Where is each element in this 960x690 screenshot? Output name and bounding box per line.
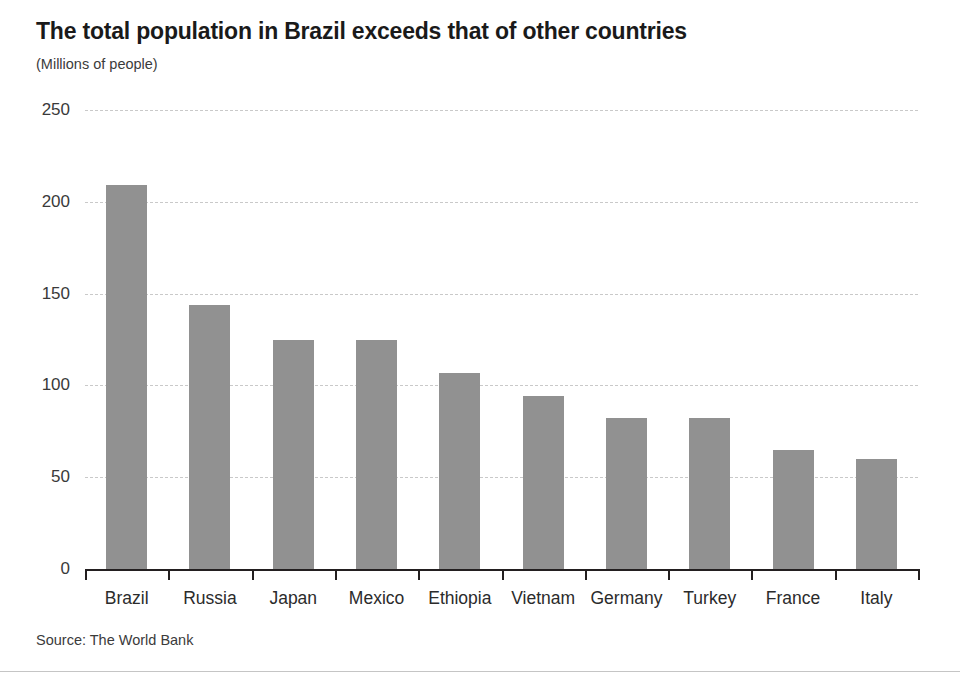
x-axis-tick xyxy=(502,569,504,580)
x-axis-tick-label: Ethiopia xyxy=(428,588,491,609)
x-axis-tick xyxy=(668,569,670,580)
chart-figure: The total population in Brazil exceeds t… xyxy=(0,0,960,690)
x-axis-tick-label: France xyxy=(766,588,820,609)
bar xyxy=(273,340,314,570)
y-axis-tick-label: 200 xyxy=(10,192,70,212)
gridline xyxy=(85,202,918,203)
y-axis-tick-label: 150 xyxy=(10,284,70,304)
x-axis-tick xyxy=(918,569,920,580)
bar xyxy=(189,305,230,569)
source-note: Source: The World Bank xyxy=(36,632,193,648)
bar xyxy=(689,418,730,569)
gridline xyxy=(85,110,918,111)
x-axis-tick-label: Mexico xyxy=(349,588,404,609)
y-axis-tick-labels: 050100150200250 xyxy=(10,110,70,569)
footer-divider xyxy=(0,671,960,672)
x-axis-tick xyxy=(751,569,753,580)
x-axis-tick xyxy=(835,569,837,580)
x-axis-tick-label: Japan xyxy=(269,588,317,609)
x-axis-tick xyxy=(85,569,87,580)
bar xyxy=(356,340,397,570)
bar xyxy=(773,450,814,569)
x-axis-tick xyxy=(418,569,420,580)
x-axis-tick xyxy=(252,569,254,580)
x-axis-tick xyxy=(585,569,587,580)
gridline xyxy=(85,294,918,295)
bar xyxy=(856,459,897,569)
bar xyxy=(106,185,147,569)
y-axis-tick-label: 50 xyxy=(10,467,70,487)
x-axis-tick-label: Turkey xyxy=(683,588,736,609)
plot-area xyxy=(85,110,918,569)
y-axis-tick-label: 250 xyxy=(10,100,70,120)
x-axis-tick-label: Brazil xyxy=(105,588,149,609)
x-axis-tick-label: Italy xyxy=(860,588,892,609)
x-axis-tick xyxy=(335,569,337,580)
x-axis-tick-label: Vietnam xyxy=(511,588,575,609)
bar xyxy=(439,373,480,569)
chart-title: The total population in Brazil exceeds t… xyxy=(36,18,687,45)
x-axis-tick-label: Germany xyxy=(590,588,662,609)
bar xyxy=(523,396,564,569)
chart-subtitle-units: (Millions of people) xyxy=(36,56,158,72)
x-axis-tick xyxy=(168,569,170,580)
bar xyxy=(606,418,647,569)
x-axis-tick-label: Russia xyxy=(183,588,237,609)
y-axis-tick-label: 100 xyxy=(10,375,70,395)
y-axis-tick-label: 0 xyxy=(10,559,70,579)
